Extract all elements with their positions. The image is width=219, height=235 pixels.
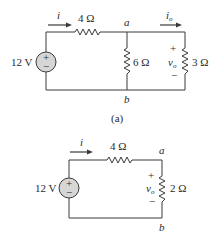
- vo-minus: −: [149, 195, 155, 207]
- arrowhead-icon: [66, 23, 72, 28]
- node-b-label: b: [159, 221, 165, 233]
- svg-text:vo: vo: [146, 182, 155, 196]
- circuit-a: + − 12 V i 4 Ω a b 6 Ω io + vo − 3 Ω (a): [11, 9, 208, 125]
- source-label: 12 V: [35, 182, 57, 194]
- resistor-4ohm-icon: [75, 29, 100, 35]
- wire-top: [132, 160, 162, 176]
- source-minus: −: [43, 60, 49, 72]
- resistor-6ohm-icon: [124, 48, 130, 74]
- label-2ohm: 2 Ω: [170, 182, 186, 194]
- label-3ohm: 3 Ω: [192, 56, 208, 68]
- io-sub: o: [169, 15, 173, 23]
- source-minus: −: [66, 186, 72, 198]
- circuit-figure: + − 12 V i 4 Ω a b 6 Ω io + vo − 3 Ω (a)…: [0, 0, 219, 235]
- wire-left-top: [69, 160, 107, 178]
- circuit-b: + − 12 V i 4 Ω a b + vo − 2 Ω: [35, 136, 186, 233]
- resistor-4ohm-icon: [107, 157, 132, 163]
- svg-text:io: io: [166, 9, 173, 23]
- caption-a: (a): [111, 112, 124, 125]
- vo-plus: +: [170, 42, 176, 54]
- current-label-i: i: [57, 9, 60, 21]
- current-label-i: i: [80, 136, 83, 148]
- wire-left-top: [46, 32, 75, 52]
- io-arrowhead-icon: [176, 23, 182, 28]
- node-a-label: a: [124, 16, 130, 28]
- vo-plus: +: [148, 169, 154, 181]
- source-label: 12 V: [11, 56, 33, 68]
- resistor-3ohm-icon: [182, 48, 188, 74]
- label-4ohm: 4 Ω: [78, 12, 94, 24]
- label-4ohm: 4 Ω: [110, 140, 126, 152]
- arrowhead-icon: [87, 150, 93, 155]
- wire-bottom: [46, 72, 185, 90]
- svg-text:vo: vo: [168, 56, 177, 70]
- node-b-label: b: [124, 93, 130, 105]
- resistor-2ohm-icon: [159, 176, 165, 202]
- node-a-label: a: [159, 144, 165, 156]
- label-6ohm: 6 Ω: [133, 56, 149, 68]
- vo-minus: −: [171, 69, 177, 81]
